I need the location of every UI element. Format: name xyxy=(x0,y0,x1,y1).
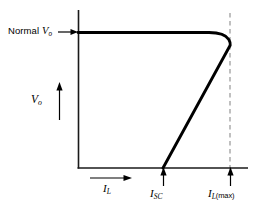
ilmax-qualifier-text: (max) xyxy=(216,191,235,200)
y-axis-symbol-text: V xyxy=(31,93,38,105)
x-axis-label: IL xyxy=(103,183,111,196)
x-axis-subscript-text: L xyxy=(107,187,111,196)
ilmax-label: IL(max) xyxy=(208,188,235,201)
foldback-current-limiting-figure: Normal Vo Vo IL ISC IL(max) xyxy=(0,0,259,209)
isc-subscript-text: SC xyxy=(154,192,163,201)
y-axis-subscript-text: o xyxy=(38,98,42,107)
y-axis-label: Vo xyxy=(31,94,42,107)
normal-vo-label: Normal Vo xyxy=(8,26,52,37)
isc-label: ISC xyxy=(150,188,162,201)
normal-vo-prefix-text: Normal xyxy=(8,25,42,36)
normal-vo-subscript-text: o xyxy=(48,30,52,37)
